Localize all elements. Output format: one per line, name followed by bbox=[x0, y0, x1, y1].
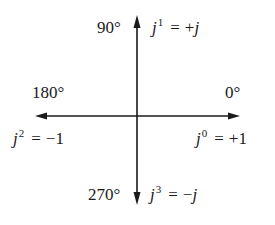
angle-270-text: 270° bbox=[88, 185, 120, 204]
exponent: 0 bbox=[202, 127, 208, 139]
value-sign: + bbox=[185, 18, 195, 37]
equals-sign: = bbox=[168, 185, 178, 204]
value: 1 bbox=[238, 129, 247, 148]
arrow-up-icon bbox=[134, 15, 141, 28]
base-j: j bbox=[196, 129, 201, 148]
equals-sign: = bbox=[170, 18, 180, 37]
equals-sign: = bbox=[214, 129, 224, 148]
power-j2-label: j2=−1 bbox=[13, 130, 64, 147]
angle-0-text: 0° bbox=[225, 83, 240, 102]
base-j: j bbox=[150, 185, 155, 204]
angle-180-label: 180° bbox=[32, 84, 64, 101]
exponent: 3 bbox=[156, 183, 162, 195]
arrow-right-icon bbox=[228, 113, 240, 120]
power-j1-label: j1=+j bbox=[152, 19, 199, 36]
value: 1 bbox=[55, 129, 64, 148]
axes bbox=[0, 0, 275, 225]
angle-90-label: 90° bbox=[97, 19, 121, 36]
base-j: j bbox=[152, 18, 157, 37]
angle-180-text: 180° bbox=[32, 83, 64, 102]
value-sign: − bbox=[183, 185, 193, 204]
value-sign: − bbox=[46, 129, 56, 148]
value: j bbox=[192, 185, 197, 204]
base-j: j bbox=[13, 129, 18, 148]
exponent: 2 bbox=[19, 127, 25, 139]
angle-0-label: 0° bbox=[225, 84, 240, 101]
arrow-down-icon bbox=[134, 192, 141, 205]
power-j3-label: j3=−j bbox=[150, 186, 197, 203]
value-sign: + bbox=[229, 129, 239, 148]
arrow-left-icon bbox=[35, 113, 47, 120]
angle-90-text: 90° bbox=[97, 18, 121, 37]
power-j0-label: j0=+1 bbox=[196, 130, 247, 147]
equals-sign: = bbox=[31, 129, 41, 148]
angle-270-label: 270° bbox=[88, 186, 120, 203]
value: j bbox=[194, 18, 199, 37]
exponent: 1 bbox=[158, 16, 164, 28]
